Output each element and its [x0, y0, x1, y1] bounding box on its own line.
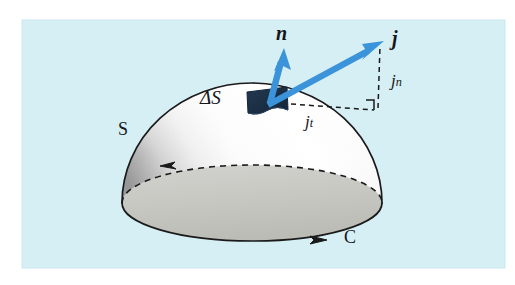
diagram-canvas	[0, 0, 515, 285]
label-normal-vector-n: n	[276, 23, 287, 43]
figure-container: n j jn jt ΔS S C	[0, 0, 515, 285]
label-surface-element-delta-s: ΔS	[200, 88, 221, 107]
label-current-density-vector-j: j	[392, 28, 398, 48]
label-jn-subscript: n	[396, 75, 402, 89]
label-surface-s: S	[118, 120, 128, 138]
label-tangential-component-jt: jt	[305, 113, 313, 130]
label-contour-c: C	[344, 228, 356, 246]
label-jt-subscript: t	[310, 116, 313, 130]
label-normal-component-jn: jn	[391, 72, 402, 89]
